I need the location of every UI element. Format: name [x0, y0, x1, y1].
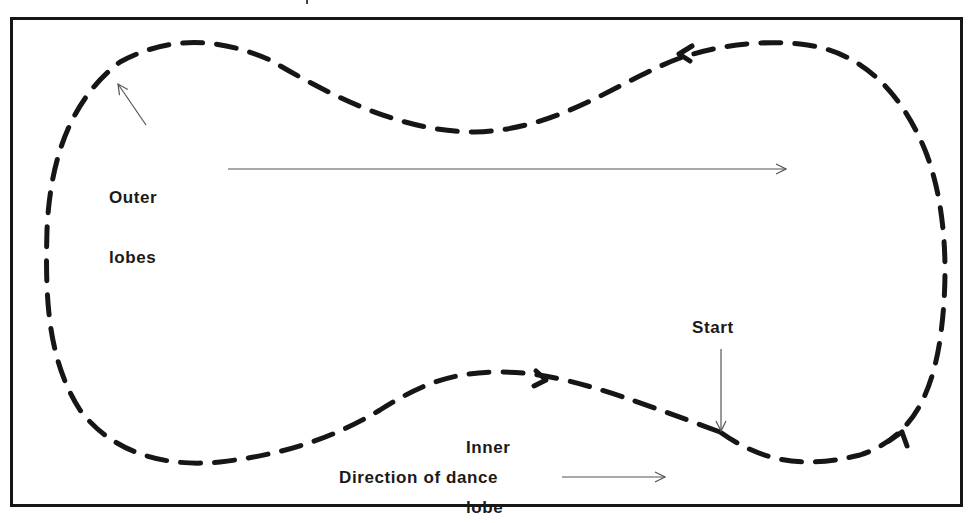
- path-arrowhead-bottom-middle: [534, 371, 546, 386]
- inner-lobe-label-line1: Inner: [466, 438, 511, 458]
- diagram-canvas: Outer lobes Inner lobe Start Direction o…: [0, 0, 973, 523]
- inner-lobe-label: Inner lobe: [466, 398, 511, 523]
- outer-lobes-label-line1: Outer: [109, 188, 157, 208]
- outer-lobes-pointer-arrow: [118, 84, 146, 125]
- outer-lobes-label: Outer lobes: [109, 148, 157, 308]
- start-label: Start: [692, 318, 734, 338]
- path-arrowhead-bottom-right: [889, 432, 907, 446]
- inner-lobe-label-line2: lobe: [466, 498, 511, 518]
- direction-of-dance-label: Direction of dance: [339, 468, 498, 488]
- outer-lobes-label-line2: lobes: [109, 248, 157, 268]
